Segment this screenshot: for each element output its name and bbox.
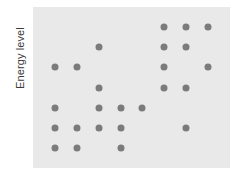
data-point [161, 64, 168, 71]
data-point [161, 84, 168, 91]
data-point [73, 64, 80, 71]
data-point [117, 144, 124, 151]
data-point [51, 124, 58, 131]
data-point [161, 44, 168, 51]
data-point [183, 24, 190, 31]
data-point [73, 144, 80, 151]
data-point [95, 84, 102, 91]
plot-area [33, 7, 230, 168]
data-point [205, 24, 212, 31]
data-point [95, 104, 102, 111]
data-point [139, 104, 146, 111]
data-point [183, 84, 190, 91]
data-point [205, 64, 212, 71]
data-point [95, 44, 102, 51]
y-axis-label: Energy level [14, 0, 26, 118]
data-point [51, 64, 58, 71]
data-point [117, 124, 124, 131]
data-point [183, 124, 190, 131]
data-point [73, 124, 80, 131]
scatter-chart-figure: Energy level [0, 0, 235, 182]
plot-panel [33, 7, 230, 168]
data-point [51, 104, 58, 111]
data-point [161, 24, 168, 31]
data-point [117, 104, 124, 111]
data-point [95, 124, 102, 131]
data-point [51, 144, 58, 151]
data-point [183, 44, 190, 51]
